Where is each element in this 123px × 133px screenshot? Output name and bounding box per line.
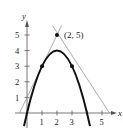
point-annotation: (2, 5) — [64, 30, 84, 40]
point-2-5 — [55, 33, 59, 37]
chart: 1 2 3 5 1 2 3 4 5 x y (2, 5) — [0, 0, 123, 133]
y-tick-label-3: 3 — [15, 61, 19, 71]
x-tick-label-2: 2 — [55, 117, 59, 127]
y-tick-label-2: 2 — [15, 77, 19, 87]
x-axis-label: x — [117, 108, 122, 118]
x-tick-label-1: 1 — [40, 117, 44, 127]
x-axis — [15, 111, 117, 116]
x-tick-label-3: 3 — [70, 117, 74, 127]
y-tick-label-5: 5 — [15, 30, 19, 40]
point-1-3 — [40, 64, 44, 68]
y-tick-label-1: 1 — [15, 93, 19, 103]
y-tick-label-4: 4 — [15, 46, 20, 56]
y-axis-arrow-icon — [25, 20, 29, 27]
x-tick-label-5: 5 — [100, 117, 104, 127]
point-3-3 — [70, 64, 74, 68]
x-axis-arrow-icon — [111, 111, 117, 115]
y-axis-label: y — [21, 11, 26, 21]
